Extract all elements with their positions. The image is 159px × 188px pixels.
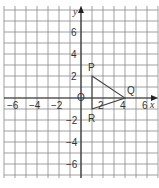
origin-label: O [77,92,85,103]
x-tick-label: −4 [29,100,41,111]
vertex-label-p: P [88,62,95,73]
vertex-label-r: R [88,113,95,124]
y-tick-label: 6 [71,27,77,38]
y-tick-label: −6 [66,159,78,170]
y-axis-arrow-icon [78,6,84,13]
y-tick-label: −2 [66,115,78,126]
x-tick-label: −6 [7,100,19,111]
y-tick-label: 2 [71,71,77,82]
x-axis-label: x [149,99,155,110]
x-tick-label: 4 [120,100,126,111]
vertex-labels: PQR [88,62,135,124]
vertex-label-q: Q [127,85,135,96]
coordinate-grid: x y O −6−4−2246642−2−4−6 PQR [0,0,159,188]
x-tick-label: −2 [51,100,63,111]
y-tick-label: 4 [71,49,77,60]
y-axis-label: y [72,6,78,17]
x-tick-label: 6 [142,100,148,111]
y-tick-label: −4 [66,137,78,148]
